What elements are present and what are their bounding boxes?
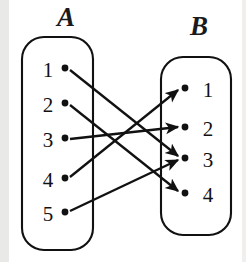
element-label-b4: 4 bbox=[198, 185, 218, 206]
element-dot-a2 bbox=[62, 100, 69, 107]
element-dot-a4 bbox=[62, 175, 69, 182]
set-a-name: A bbox=[57, 4, 75, 31]
set-b-boundary bbox=[161, 57, 231, 235]
element-dot-a3 bbox=[62, 135, 69, 142]
element-label-a1: 1 bbox=[38, 60, 58, 81]
element-label-a3: 3 bbox=[38, 130, 58, 151]
element-label-b1: 1 bbox=[198, 80, 218, 101]
dot-layer bbox=[62, 65, 189, 216]
element-dot-b4 bbox=[182, 190, 189, 197]
element-label-b2: 2 bbox=[198, 119, 218, 140]
element-dot-b2 bbox=[182, 124, 189, 131]
element-dot-b1 bbox=[182, 85, 189, 92]
set-b-name: B bbox=[190, 13, 208, 40]
element-label-a5: 5 bbox=[38, 204, 58, 225]
element-label-a4: 4 bbox=[38, 170, 58, 191]
element-label-b3: 3 bbox=[198, 150, 218, 171]
element-dot-a1 bbox=[62, 65, 69, 72]
element-dot-a5 bbox=[62, 209, 69, 216]
mapping-diagram-figure: A B 123451234 bbox=[0, 0, 246, 262]
element-dot-b3 bbox=[182, 155, 189, 162]
element-label-a2: 2 bbox=[38, 95, 58, 116]
